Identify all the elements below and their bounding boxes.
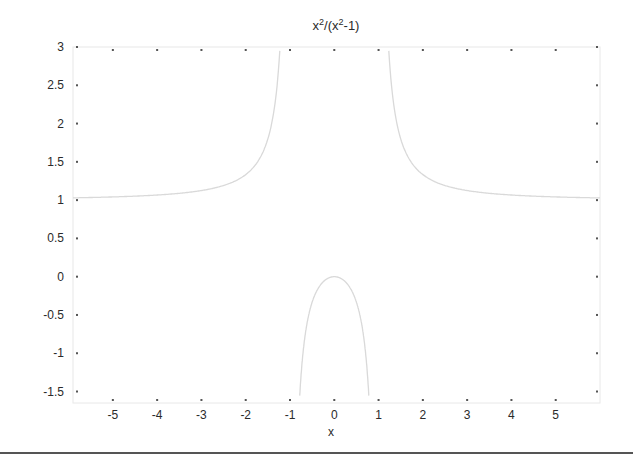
y-tick-mark: [76, 352, 78, 354]
y-tick-mark-right: [596, 46, 598, 48]
x-tick-label: 5: [552, 408, 559, 422]
y-tick-mark-right: [596, 276, 598, 278]
x-tick-mark: [510, 399, 512, 401]
x-tick-mark: [333, 399, 335, 401]
x-tick-mark: [200, 399, 202, 401]
x-tick-label: 4: [508, 408, 515, 422]
y-tick-label: 0.5: [47, 231, 64, 245]
y-tick-label: -0.5: [43, 308, 64, 322]
x-tick-mark-top: [555, 49, 557, 51]
x-tick-mark: [422, 399, 424, 401]
y-tick-mark: [76, 314, 78, 316]
plot-canvas: x2/(x2-1) -5-4-3-2-1012345 32.521.510.50…: [0, 0, 633, 459]
x-tick-mark: [466, 399, 468, 401]
y-tick-label: 2.5: [47, 78, 64, 92]
x-tick-label: 1: [375, 408, 382, 422]
x-tick-mark: [156, 399, 158, 401]
x-axis-label: x: [328, 425, 334, 439]
y-tick-label: -1: [53, 346, 64, 360]
curve-right-branch: [389, 51, 600, 198]
y-tick-mark-right: [596, 314, 598, 316]
x-tick-mark: [378, 399, 380, 401]
y-tick-label: 1: [57, 193, 64, 207]
x-tick-label: 3: [464, 408, 471, 422]
x-tick-mark: [112, 399, 114, 401]
y-tick-mark-right: [596, 123, 598, 125]
y-tick-mark-right: [596, 84, 598, 86]
y-tick-mark: [76, 276, 78, 278]
y-tick-label: 2: [57, 117, 64, 131]
y-axis-ticks: 32.521.510.50-0.5-1-1.5: [43, 40, 598, 399]
bottom-divider: [0, 452, 633, 454]
x-tick-mark-top: [156, 49, 158, 51]
x-tick-mark: [245, 399, 247, 401]
chart-title: x2/(x2-1): [313, 17, 360, 33]
x-tick-mark-top: [333, 49, 335, 51]
curve-left-branch: [73, 51, 280, 198]
y-tick-mark-right: [596, 161, 598, 163]
y-tick-mark-right: [596, 391, 598, 393]
x-tick-mark-top: [466, 49, 468, 51]
y-tick-mark: [76, 237, 78, 239]
y-tick-mark: [76, 391, 78, 393]
y-tick-mark: [76, 123, 78, 125]
x-tick-mark: [289, 399, 291, 401]
y-tick-label: 0: [57, 270, 64, 284]
curve-middle-branch: [300, 277, 369, 396]
y-tick-label: 1.5: [47, 155, 64, 169]
x-tick-mark-top: [422, 49, 424, 51]
x-tick-mark: [555, 399, 557, 401]
x-tick-label: -5: [108, 408, 119, 422]
x-tick-mark-top: [289, 49, 291, 51]
y-tick-mark: [76, 199, 78, 201]
x-tick-label: -3: [196, 408, 207, 422]
x-tick-mark-top: [245, 49, 247, 51]
x-tick-mark-top: [378, 49, 380, 51]
x-axis-ticks: -5-4-3-2-1012345: [108, 49, 560, 422]
y-tick-mark: [76, 84, 78, 86]
y-tick-mark-right: [596, 199, 598, 201]
y-tick-mark-right: [596, 352, 598, 354]
x-tick-label: 2: [420, 408, 427, 422]
x-tick-label: -4: [152, 408, 163, 422]
axes-frame: [73, 47, 600, 403]
y-tick-mark-right: [596, 237, 598, 239]
x-tick-label: 0: [331, 408, 338, 422]
x-tick-label: -2: [240, 408, 251, 422]
y-tick-mark: [76, 161, 78, 163]
x-tick-mark-top: [200, 49, 202, 51]
x-tick-mark-top: [112, 49, 114, 51]
x-tick-mark-top: [510, 49, 512, 51]
y-tick-label: 3: [57, 40, 64, 54]
chart: x2/(x2-1) -5-4-3-2-1012345 32.521.510.50…: [0, 0, 633, 459]
y-tick-mark: [76, 46, 78, 48]
y-tick-label: -1.5: [43, 385, 64, 399]
function-curves: [73, 51, 600, 396]
x-tick-label: -1: [285, 408, 296, 422]
